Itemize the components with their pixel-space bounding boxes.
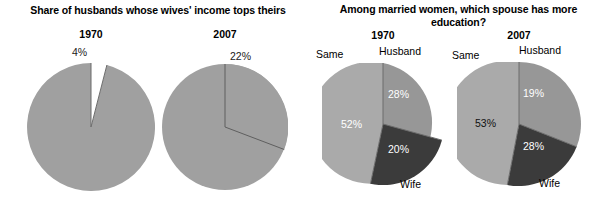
panel-education: Among married women, which spouse has mo… xyxy=(316,0,601,202)
year-label-education-2007: 2007 xyxy=(484,29,554,41)
panel-income-title: Share of husbands whose wives' income to… xyxy=(0,4,316,17)
pie-chart-income-1970 xyxy=(27,63,155,191)
panel-income: Share of husbands whose wives' income to… xyxy=(0,0,316,202)
pie-svg-income-2007 xyxy=(162,64,288,190)
category-label-education-1970-wife: Wife xyxy=(400,178,421,190)
value-label-education-2007-wife: 28% xyxy=(523,140,544,152)
category-label-education-2007-husband: Husband xyxy=(519,44,561,56)
category-label-education-1970-same: Same xyxy=(316,48,343,60)
value-label-education-2007-same: 53% xyxy=(475,117,496,129)
category-label-education-2007-wife: Wife xyxy=(539,177,560,189)
category-label-education-1970-husband: Husband xyxy=(379,45,421,57)
year-label-education-1970: 1970 xyxy=(348,29,418,41)
callout-income-2007: 22% xyxy=(230,50,251,62)
value-label-education-1970-husband: 28% xyxy=(388,88,409,100)
callout-income-1970: 4% xyxy=(72,46,87,58)
category-label-education-2007-same: Same xyxy=(452,49,479,61)
year-label-income-2007: 2007 xyxy=(190,28,260,40)
value-label-education-1970-same: 52% xyxy=(341,118,362,130)
value-label-education-1970-wife: 20% xyxy=(388,143,409,155)
year-label-income-1970: 1970 xyxy=(56,28,126,40)
panel-education-title: Among married women, which spouse has mo… xyxy=(316,3,601,28)
pie-chart-income-2007 xyxy=(162,64,288,190)
value-label-education-2007-husband: 19% xyxy=(523,87,544,99)
figure-root: Share of husbands whose wives' income to… xyxy=(0,0,601,202)
pie-svg-income-1970 xyxy=(27,63,155,191)
